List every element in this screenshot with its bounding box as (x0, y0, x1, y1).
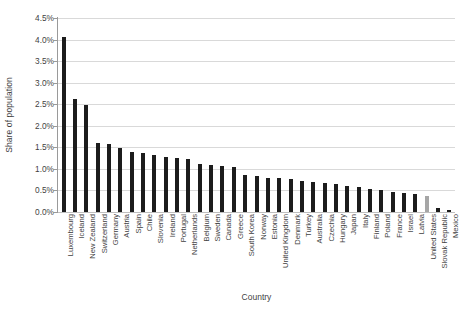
y-axis-tick-labels: 4.5%4.0%3.5%3.0%2.5%2.0%1.5%1.0%0.5%0.0% (18, 0, 54, 310)
bar[interactable] (141, 153, 145, 212)
x-tick-label: Norway (260, 214, 268, 292)
bar[interactable] (232, 167, 236, 212)
x-tick-label: Sweden (214, 214, 222, 292)
y-tick-mark (53, 190, 58, 191)
bar[interactable] (289, 179, 293, 212)
y-tick-mark (53, 126, 58, 127)
y-tick-label: 2.5% (35, 99, 54, 109)
y-tick-mark (53, 18, 58, 19)
x-tick-label: United States (430, 214, 438, 292)
x-tick-label: Chile (146, 214, 154, 292)
bar[interactable] (130, 152, 134, 212)
x-tick-label: Japan (350, 214, 358, 292)
bar[interactable] (107, 144, 111, 212)
y-tick-label: 1.0% (35, 164, 54, 174)
bar[interactable] (300, 181, 304, 212)
y-tick-label: 3.0% (35, 78, 54, 88)
x-tick-label: Iceland (78, 214, 86, 292)
gridline (58, 126, 455, 127)
x-tick-label: Estonia (271, 214, 279, 292)
bar[interactable] (209, 165, 213, 212)
x-tick-label: Mexico (452, 214, 460, 292)
bar[interactable] (402, 193, 406, 212)
x-tick-label: New Zealand (89, 214, 97, 292)
gridline (58, 104, 455, 105)
y-tick-label: 4.5% (35, 13, 54, 23)
y-tick-label: 2.0% (35, 121, 54, 131)
x-tick-label: Hungary (339, 214, 347, 292)
x-tick-label: Latvia (418, 214, 426, 292)
y-tick-label: 0.5% (35, 185, 54, 195)
bar-chart: Share of population 4.5%4.0%3.5%3.0%2.5%… (0, 0, 467, 310)
bar[interactable] (345, 186, 349, 212)
y-tick-mark (53, 104, 58, 105)
x-tick-label: Australia (316, 214, 324, 292)
bar[interactable] (266, 178, 270, 212)
bar[interactable] (323, 183, 327, 212)
gridline (58, 40, 455, 41)
gridline (58, 18, 455, 19)
x-tick-label: Switzerland (101, 214, 109, 292)
x-tick-label: Poland (384, 214, 392, 292)
y-tick-label: 4.0% (35, 35, 54, 45)
x-tick-label: Germany (112, 214, 120, 292)
y-tick-mark (53, 147, 58, 148)
bar[interactable] (255, 176, 259, 212)
y-tick-label: 0.0% (35, 207, 54, 217)
y-axis-title-label: Share of population (4, 77, 14, 153)
bar[interactable] (447, 210, 451, 212)
x-axis-title: Country (58, 292, 455, 302)
x-tick-label: Netherlands (191, 214, 199, 292)
plot-area (58, 18, 455, 212)
bar[interactable] (311, 182, 315, 212)
x-tick-label: Israel (407, 214, 415, 292)
x-tick-label: Belgium (203, 214, 211, 292)
gridline (58, 212, 455, 213)
bar[interactable] (436, 208, 440, 212)
bar[interactable] (357, 187, 361, 212)
x-tick-label: Austria (123, 214, 131, 292)
bar[interactable] (368, 189, 372, 212)
x-tick-label: Slovak Republic (441, 214, 449, 292)
bar[interactable] (220, 166, 224, 212)
bar[interactable] (62, 37, 66, 212)
x-tick-label: Canada (225, 214, 233, 292)
bar[interactable] (186, 159, 190, 212)
bar[interactable] (164, 157, 168, 212)
bar[interactable] (391, 192, 395, 212)
bar[interactable] (243, 175, 247, 212)
y-tick-mark (53, 61, 58, 62)
x-tick-label: Finland (373, 214, 381, 292)
x-tick-label: Greece (237, 214, 245, 292)
gridline (58, 61, 455, 62)
x-tick-label: Turkey (305, 214, 313, 292)
x-tick-label: Ireland (169, 214, 177, 292)
bar[interactable] (379, 190, 383, 212)
bar[interactable] (84, 105, 88, 212)
bar[interactable] (73, 99, 77, 212)
y-tick-mark (53, 169, 58, 170)
bar[interactable] (175, 158, 179, 212)
x-tick-label: Spain (135, 214, 143, 292)
bar[interactable] (413, 194, 417, 212)
x-tick-label: Denmark (294, 214, 302, 292)
bar[interactable] (334, 184, 338, 212)
x-tick-label: South Korea (248, 214, 256, 292)
bar[interactable] (425, 196, 429, 212)
x-tick-label: Luxembourg (67, 214, 75, 292)
bar[interactable] (198, 164, 202, 212)
y-tick-mark (53, 83, 58, 84)
gridline (58, 83, 455, 84)
bar[interactable] (118, 148, 122, 212)
x-tick-label: Portugal (180, 214, 188, 292)
x-axis-tick-labels: LuxembourgIcelandNew ZealandSwitzerlandG… (58, 214, 455, 292)
x-tick-label: Czechia (328, 214, 336, 292)
y-axis-title: Share of population (0, 0, 18, 230)
bar[interactable] (152, 155, 156, 212)
x-tick-label: France (396, 214, 404, 292)
y-tick-label: 3.5% (35, 56, 54, 66)
bar[interactable] (277, 178, 281, 212)
bar[interactable] (96, 143, 100, 212)
y-tick-label: 1.5% (35, 142, 54, 152)
x-tick-label: United Kingdom (282, 214, 290, 292)
